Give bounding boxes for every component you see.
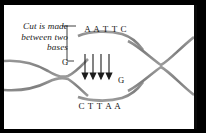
top-base-4: C — [119, 24, 128, 34]
top-strand-sequence: AATTC — [83, 24, 128, 34]
top-base-3: T — [110, 24, 119, 34]
bottom-base-1: T — [86, 101, 95, 111]
bottom-base-3: A — [104, 101, 113, 111]
right-cut-base-label: G — [118, 75, 124, 85]
bottom-strand-sequence: CTTAA — [77, 101, 122, 111]
top-base-1: A — [92, 24, 101, 34]
right-helix — [128, 37, 194, 95]
bottom-base-4: A — [113, 101, 122, 111]
figure-canvas: Cut is made between two bases AATTC CTTA… — [4, 5, 194, 129]
cut-arrows — [82, 54, 112, 79]
caption-block: Cut is made between two bases — [6, 21, 68, 53]
right-helix-strand-a — [128, 37, 194, 65]
center-ladder — [78, 32, 143, 101]
caption-line-3: bases — [6, 42, 68, 53]
bottom-base-2: T — [95, 101, 104, 111]
frame-right-band — [197, 0, 206, 133]
left-helix — [4, 59, 88, 96]
caption-line-1: Cut is made — [6, 21, 68, 32]
top-base-0: A — [83, 24, 92, 34]
top-base-2: T — [101, 24, 110, 34]
left-helix-rungs — [12, 61, 81, 93]
right-helix-strand-b — [128, 67, 194, 95]
bottom-base-0: C — [77, 101, 86, 111]
caption-line-2: between two — [6, 32, 68, 43]
dna-cut-site-figure: Cut is made between two bases AATTC CTTA… — [0, 0, 206, 133]
center-rungs — [82, 33, 124, 99]
frame-bottom-band — [0, 129, 206, 133]
left-cut-base-label: G — [62, 57, 68, 67]
